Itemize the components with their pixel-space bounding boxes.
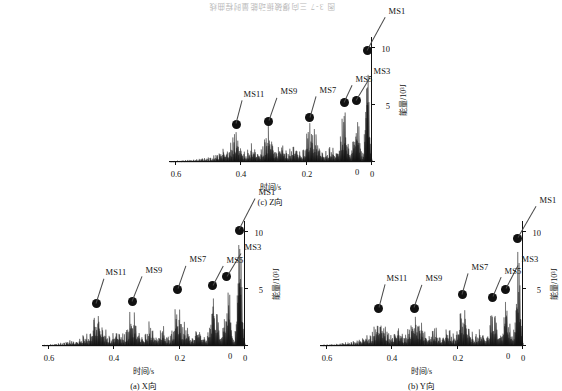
panel-a-x-direction: 00.20.40.60510时间/s能量/10³J(a) X向MS1MS3MS5…	[13, 193, 253, 368]
y-tick-label-panel-a-2: 10	[249, 229, 263, 238]
y-tick-label-panel-a-0: 0	[228, 352, 242, 361]
x-tick-label-panel-a-1: 0.2	[171, 354, 189, 363]
annotation-label-ms7-panel-c: MS7	[314, 85, 342, 94]
y-axis-line-panel-c	[371, 37, 372, 162]
x-axis-line-panel-b	[320, 345, 523, 346]
panel-c-plot: 00.20.40.60510时间/s能量/10³J(c) Z向MS1MS3MS5…	[169, 37, 372, 162]
y-tick-label-panel-b-2: 10	[527, 229, 541, 238]
y-tick-panel-b-0	[523, 345, 526, 346]
x-tick-panel-c-2	[240, 162, 241, 165]
annotation-label-ms3-panel-b: MS3	[516, 255, 544, 264]
annotation-label-ms9-panel-a: MS9	[140, 265, 168, 274]
y-axis-line-panel-b	[522, 221, 523, 346]
panel-b-y-direction: 00.20.40.60510时间/s能量/10³J(b) Y向MS1MS3MS5…	[299, 193, 531, 368]
annotation-label-ms1-panel-b: MS1	[534, 196, 562, 205]
annotation-label-ms9-panel-c: MS9	[275, 87, 303, 96]
x-tick-panel-b-2	[391, 346, 392, 349]
annotation-label-ms7-panel-b: MS7	[466, 262, 494, 271]
x-tick-label-panel-c-2: 0.4	[232, 170, 250, 179]
x-axis-title-panel-a: 时间/s	[42, 368, 245, 376]
y-tick-panel-a-1	[245, 288, 248, 289]
x-tick-label-panel-b-1: 0.2	[449, 354, 467, 363]
leader-line-ms1-panel-a	[239, 198, 256, 229]
y-tick-panel-b-1	[523, 288, 526, 289]
x-tick-panel-c-1	[306, 162, 307, 165]
y-tick-panel-b-2	[523, 231, 526, 232]
annotation-label-ms5-panel-c: MS5	[350, 74, 378, 83]
annotation-label-ms11-panel-a: MS11	[102, 267, 130, 276]
panel-a-plot: 00.20.40.60510时间/s能量/10³J(a) X向MS1MS3MS5…	[42, 221, 245, 346]
x-tick-label-panel-b-3: 0.6	[318, 354, 336, 363]
y-axis-title-panel-a: 能量/10³J	[273, 255, 281, 315]
y-axis-title-panel-b: 能量/10³J	[551, 255, 559, 315]
x-tick-panel-b-1	[457, 346, 458, 349]
y-tick-label-panel-b-0: 0	[506, 352, 520, 361]
x-tick-panel-a-2	[113, 346, 114, 349]
x-axis-line-panel-c	[169, 161, 372, 162]
x-tick-label-panel-a-3: 0.6	[40, 354, 58, 363]
x-tick-panel-b-3	[326, 346, 327, 349]
x-tick-panel-c-3	[175, 162, 176, 165]
y-tick-panel-a-0	[245, 345, 248, 346]
x-tick-label-panel-c-3: 0.6	[167, 170, 185, 179]
x-axis-line-panel-a	[42, 345, 245, 346]
annotation-label-ms7-panel-a: MS7	[184, 255, 212, 264]
y-tick-label-panel-c-1: 5	[376, 102, 390, 111]
annotation-label-ms3-panel-a: MS3	[239, 242, 267, 251]
y-tick-panel-c-1	[372, 104, 375, 105]
panel-b-plot: 00.20.40.60510时间/s能量/10³J(b) Y向MS1MS3MS5…	[320, 221, 523, 346]
y-tick-panel-a-2	[245, 231, 248, 232]
subfigure-caption-panel-a: (a) X向	[42, 382, 245, 391]
y-tick-panel-c-2	[372, 47, 375, 48]
annotation-label-ms11-panel-c: MS11	[240, 90, 268, 99]
annotation-label-ms1-panel-a: MS1	[253, 188, 281, 197]
x-axis-title-panel-b: 时间/s	[320, 368, 523, 376]
annotation-label-ms5-panel-a: MS5	[221, 255, 249, 264]
y-tick-panel-c-0	[372, 161, 375, 162]
x-tick-panel-c-0	[371, 162, 372, 165]
annotation-label-ms1-panel-c: MS1	[383, 6, 411, 15]
x-tick-label-panel-c-1: 0.2	[298, 170, 316, 179]
x-tick-panel-a-0	[244, 346, 245, 349]
y-tick-label-panel-a-1: 5	[249, 286, 263, 295]
y-tick-label-panel-c-0: 0	[355, 168, 369, 177]
y-tick-label-panel-c-2: 10	[376, 45, 390, 54]
x-tick-panel-a-3	[48, 346, 49, 349]
y-tick-label-panel-b-1: 5	[527, 286, 541, 295]
annotation-label-ms9-panel-b: MS9	[420, 274, 448, 283]
panel-c-z-direction: 00.20.40.60510时间/s能量/10³J(c) Z向MS1MS3MS5…	[160, 9, 380, 184]
annotation-label-ms3-panel-c: MS3	[368, 66, 396, 75]
x-tick-label-panel-a-2: 0.4	[105, 354, 123, 363]
x-tick-label-panel-b-2: 0.4	[383, 354, 401, 363]
x-tick-panel-b-0	[522, 346, 523, 349]
annotation-label-ms11-panel-b: MS11	[383, 274, 411, 283]
y-axis-line-panel-a	[244, 221, 245, 346]
x-tick-panel-a-1	[179, 346, 180, 349]
annotation-label-ms5-panel-b: MS5	[499, 267, 527, 276]
subfigure-caption-panel-b: (b) Y向	[320, 382, 523, 391]
y-axis-title-panel-c: 能量/10³J	[400, 71, 408, 131]
